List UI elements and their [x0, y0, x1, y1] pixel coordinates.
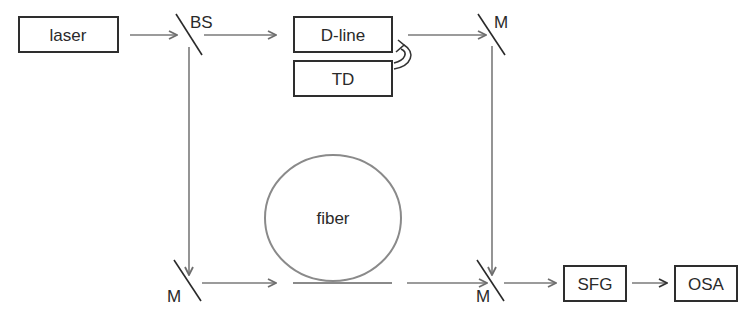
delay-line-box: D-line	[294, 17, 392, 52]
laser-box: laser	[19, 17, 118, 52]
translation-driver-label: TD	[332, 70, 355, 89]
osa-label: OSA	[688, 275, 725, 294]
fiber-coil: fiber	[265, 155, 401, 283]
osa-box: OSA	[675, 266, 737, 301]
translation-driver-box: TD	[294, 61, 392, 96]
beam-splitter-label: BS	[190, 13, 213, 32]
curved-arrow-icon	[394, 40, 411, 69]
mirror-bottom-right-label: M	[476, 287, 490, 306]
sfg-box: SFG	[564, 266, 626, 301]
mirror-top-right-label: M	[494, 13, 508, 32]
fiber-label: fiber	[316, 209, 349, 228]
mirror-bottom-left-label: M	[167, 287, 181, 306]
delay-line-label: D-line	[321, 26, 365, 45]
laser-label: laser	[50, 26, 87, 45]
sfg-label: SFG	[578, 275, 613, 294]
optical-setup-diagram: laser BS D-line TD M M fiber	[0, 0, 747, 312]
